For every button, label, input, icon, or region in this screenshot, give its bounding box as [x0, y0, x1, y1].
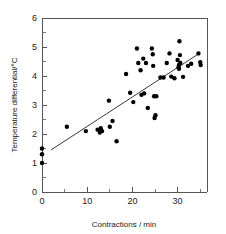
- chart-canvas: 0102030 0123456 Contractions / min Tempe…: [0, 0, 226, 234]
- data-point: [177, 39, 181, 43]
- scatter-plot-figure: 0102030 0123456 Contractions / min Tempe…: [0, 0, 226, 234]
- data-point: [40, 152, 44, 156]
- data-point: [196, 51, 200, 55]
- data-point: [150, 46, 154, 50]
- data-point: [144, 61, 148, 65]
- data-point: [135, 46, 139, 50]
- data-point: [128, 91, 132, 95]
- data-point: [141, 56, 145, 60]
- data-point: [65, 125, 69, 129]
- data-point: [178, 61, 182, 65]
- y-axis-tick-labels: 0123456: [32, 13, 37, 197]
- x-tick-label: 0: [39, 196, 44, 206]
- y-axis-ticks: [42, 18, 47, 192]
- x-axis-tick-labels: 0102030: [39, 196, 182, 206]
- y-tick-label: 4: [32, 71, 37, 81]
- data-point: [165, 61, 169, 65]
- data-point: [131, 100, 135, 104]
- plot-frame: [42, 18, 207, 192]
- data-point: [181, 75, 185, 79]
- data-point: [110, 119, 114, 123]
- x-axis-ticks: [42, 187, 200, 192]
- y-axis-title: Temperature differential/°C: [10, 57, 19, 152]
- y-tick-label: 0: [32, 187, 37, 197]
- data-point: [84, 129, 88, 133]
- y-tick-label: 5: [32, 42, 37, 52]
- data-point: [124, 72, 128, 76]
- data-point: [138, 68, 142, 72]
- data-point: [161, 75, 165, 79]
- y-tick-label: 2: [32, 129, 37, 139]
- data-point: [100, 129, 104, 133]
- data-point: [153, 113, 157, 117]
- data-point: [198, 63, 202, 67]
- y-tick-label: 6: [32, 13, 37, 23]
- y-tick-label: 1: [32, 158, 37, 168]
- x-tick-label: 30: [173, 196, 183, 206]
- data-point: [40, 146, 44, 150]
- data-point: [108, 125, 112, 129]
- data-point: [107, 98, 111, 102]
- data-point: [136, 61, 140, 65]
- x-tick-label: 20: [127, 196, 137, 206]
- data-point: [142, 91, 146, 95]
- data-point: [40, 161, 44, 165]
- data-point: [178, 53, 182, 57]
- data-point: [114, 139, 118, 143]
- data-point: [172, 76, 176, 80]
- data-point: [151, 64, 155, 68]
- y-tick-label: 3: [32, 100, 37, 110]
- data-points: [40, 39, 203, 165]
- x-tick-label: 10: [82, 196, 92, 206]
- data-point: [151, 52, 155, 56]
- data-point: [167, 51, 171, 55]
- x-axis-title: Contractions / min: [92, 220, 156, 229]
- data-point: [177, 67, 181, 71]
- data-point: [146, 106, 150, 110]
- data-point: [189, 62, 193, 66]
- data-point: [154, 94, 158, 98]
